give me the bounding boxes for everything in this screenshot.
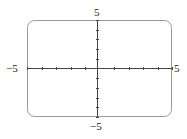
coordinate-plane <box>0 0 187 139</box>
y-min-label: −5 <box>90 121 102 132</box>
y-max-label: 5 <box>94 7 100 18</box>
x-min-label: −5 <box>6 63 18 74</box>
x-max-label: 5 <box>174 63 180 74</box>
